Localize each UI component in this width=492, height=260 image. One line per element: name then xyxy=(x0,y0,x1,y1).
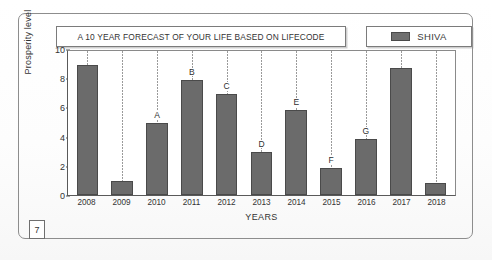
bar[interactable]: D xyxy=(251,152,273,195)
y-tick-label: 6 xyxy=(60,103,65,113)
y-tick-label: 4 xyxy=(60,133,65,143)
chart-area: Prosperity level 0246810 ABCDEFG 2008200… xyxy=(29,50,459,210)
bar-series: ABCDEFG xyxy=(68,51,455,195)
bar[interactable]: C xyxy=(216,94,238,195)
bar-slot: D xyxy=(244,51,279,195)
bar-point-label: E xyxy=(292,98,300,107)
bar[interactable]: G xyxy=(355,139,377,195)
y-tick-label: 8 xyxy=(60,74,65,84)
bar[interactable]: F xyxy=(320,168,342,195)
bar-point-label: F xyxy=(327,156,334,165)
chart-title-box: A 10 YEAR FORECAST OF YOUR LIFE BASED ON… xyxy=(56,26,346,47)
figure-number-badge: 7 xyxy=(29,220,45,239)
bar[interactable]: E xyxy=(285,110,307,195)
x-tick-label: 2016 xyxy=(349,198,384,207)
x-tick-label: 2013 xyxy=(244,198,279,207)
bar[interactable]: B xyxy=(181,80,203,195)
bar[interactable] xyxy=(425,183,447,195)
bar[interactable] xyxy=(111,181,133,195)
x-tick-label: 2017 xyxy=(384,198,419,207)
x-axis-label: YEARS xyxy=(67,212,456,222)
bar-slot xyxy=(105,51,140,195)
x-axis-ticks: 2008200920102011201220132014201520162017… xyxy=(67,198,456,207)
legend-swatch-icon xyxy=(391,32,410,41)
bar-slot xyxy=(418,51,453,195)
legend-label: SHIVA xyxy=(417,31,446,42)
bar[interactable] xyxy=(390,68,412,195)
bar-slot: G xyxy=(349,51,384,195)
y-tick-label: 10 xyxy=(55,45,65,55)
bar-slot xyxy=(70,51,105,195)
bar[interactable] xyxy=(77,65,99,195)
x-tick-label: 2008 xyxy=(69,198,104,207)
bar-slot: A xyxy=(140,51,175,195)
y-axis-label: Prosperity level xyxy=(23,0,33,86)
bar-point-label: A xyxy=(153,111,161,120)
x-tick-label: 2009 xyxy=(104,198,139,207)
bar-slot: F xyxy=(314,51,349,195)
chart-legend: SHIVA xyxy=(366,26,472,47)
chart-title: A 10 YEAR FORECAST OF YOUR LIFE BASED ON… xyxy=(77,32,324,42)
bar-slot: C xyxy=(209,51,244,195)
x-tick-label: 2014 xyxy=(279,198,314,207)
bar-slot xyxy=(383,51,418,195)
x-tick-label: 2012 xyxy=(209,198,244,207)
y-tick-label: 0 xyxy=(60,191,65,201)
bar-slot: E xyxy=(279,51,314,195)
x-tick-label: 2018 xyxy=(419,198,454,207)
bar-point-label: G xyxy=(362,127,371,136)
bar-slot: B xyxy=(174,51,209,195)
bar-point-label: D xyxy=(257,140,265,149)
y-axis-ticks: 0246810 xyxy=(41,50,65,196)
x-tick-label: 2015 xyxy=(314,198,349,207)
bar-point-label: B xyxy=(188,68,196,77)
y-tick-label: 2 xyxy=(60,162,65,172)
bar[interactable]: A xyxy=(146,123,168,195)
x-tick-label: 2011 xyxy=(174,198,209,207)
x-tick-label: 2010 xyxy=(139,198,174,207)
bar-point-label: C xyxy=(223,82,231,91)
plot-area: ABCDEFG xyxy=(67,50,456,196)
